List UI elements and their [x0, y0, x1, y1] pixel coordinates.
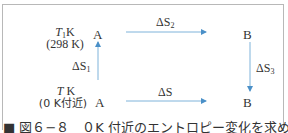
delta-s1-label: ΔS1 — [72, 60, 90, 76]
temperature-value-top: (298 K) — [38, 38, 92, 51]
node-a-bottom: A — [95, 96, 104, 109]
node-b-top: B — [243, 28, 252, 41]
node-a-top: A — [93, 28, 102, 41]
arrows — [0, 0, 288, 133]
delta-s-label: ΔS — [158, 86, 172, 99]
node-b-bottom: B — [243, 96, 252, 109]
delta-s3-label: ΔS3 — [256, 62, 274, 78]
temperature-value-bottom: (0 K付近) — [34, 97, 92, 110]
figure-caption: ■ 図６−８ ０K 付近のエントロピー変化を求める経路 — [3, 121, 288, 133]
delta-s2-label: ΔS2 — [156, 16, 174, 32]
